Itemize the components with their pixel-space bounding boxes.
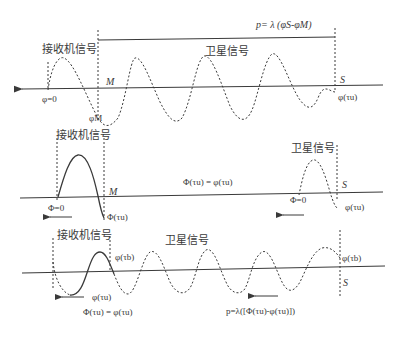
phi-tau-b-label-right: φ(τb) bbox=[342, 254, 361, 263]
range-formula: p=λ([Φ(τu)-φ(τu)]) bbox=[226, 307, 295, 316]
phi-m-label: φM bbox=[89, 114, 102, 123]
Phi-zero-label-left: Φ=0 bbox=[48, 204, 64, 213]
receiver-signal-label: 接收机信号 bbox=[57, 230, 112, 241]
phase-equation: Φ(τu) = φ(τu) bbox=[183, 178, 233, 187]
receiver-signal-label: 接收机信号 bbox=[56, 130, 111, 141]
range-formula: p= λ (φS-φM) bbox=[256, 20, 311, 30]
phi-tau-u-label: φ(τu) bbox=[338, 93, 357, 102]
receiver-wave bbox=[58, 155, 104, 218]
phi-zero-label: φ=0 bbox=[42, 95, 57, 104]
point-m-label: M bbox=[106, 77, 114, 87]
receiver-wave bbox=[70, 252, 114, 295]
point-s-label: S bbox=[340, 75, 345, 85]
point-m-label: M bbox=[109, 187, 117, 197]
satellite-signal-label: 卫星信号 bbox=[205, 46, 249, 57]
point-s-label: S bbox=[342, 180, 347, 190]
phi-tau-b-label-left: φ(τb) bbox=[115, 253, 134, 262]
axis-line bbox=[20, 192, 383, 198]
receiver-signal-label: 接收机信号 bbox=[42, 44, 97, 55]
axis-line bbox=[22, 85, 383, 89]
phi-tau-u-label: φ(τu) bbox=[345, 203, 364, 212]
range-line bbox=[98, 37, 335, 40]
phase-equation: Φ(τu) = φ(τu) bbox=[83, 308, 133, 317]
phi-tau-u-label: φ(τu) bbox=[92, 293, 111, 302]
satellite-signal-label: 卫星信号 bbox=[291, 143, 335, 154]
satellite-signal-label: 卫星信号 bbox=[165, 235, 209, 246]
axis-line bbox=[22, 266, 385, 273]
receiver-wave-lead bbox=[53, 262, 70, 295]
Phi-zero-label-right: Φ=0 bbox=[290, 196, 306, 205]
Phi-tau-u-label: Φ(τu) bbox=[107, 213, 128, 222]
point-s-label: S bbox=[343, 278, 348, 288]
